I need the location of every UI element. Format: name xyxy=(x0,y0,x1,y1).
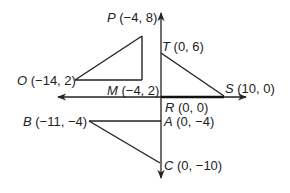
coordinate-diagram: P (−4, 8) T (0, 6) O (−14, 2) M (−4, 2) … xyxy=(0,0,290,193)
triangle-opm xyxy=(75,36,142,80)
label-point-a: A (0, −4) xyxy=(163,114,214,129)
label-point-b: B (−11, −4) xyxy=(23,114,87,129)
label-point-c: C (0, −10) xyxy=(164,158,222,173)
label-point-m: M (−4, 2) xyxy=(107,83,159,98)
triangle-rts xyxy=(161,53,224,97)
label-point-s: S (10, 0) xyxy=(225,81,275,96)
segment-bc xyxy=(89,121,160,163)
label-point-o: O (−14, 2) xyxy=(17,73,76,88)
segment-ts xyxy=(161,53,224,96)
label-point-p: P (−4, 8) xyxy=(107,10,157,25)
triangle-bac xyxy=(89,121,161,163)
segment-op xyxy=(75,36,142,80)
label-point-r: R (0, 0) xyxy=(165,100,208,115)
label-point-t: T (0, 6) xyxy=(162,39,204,54)
